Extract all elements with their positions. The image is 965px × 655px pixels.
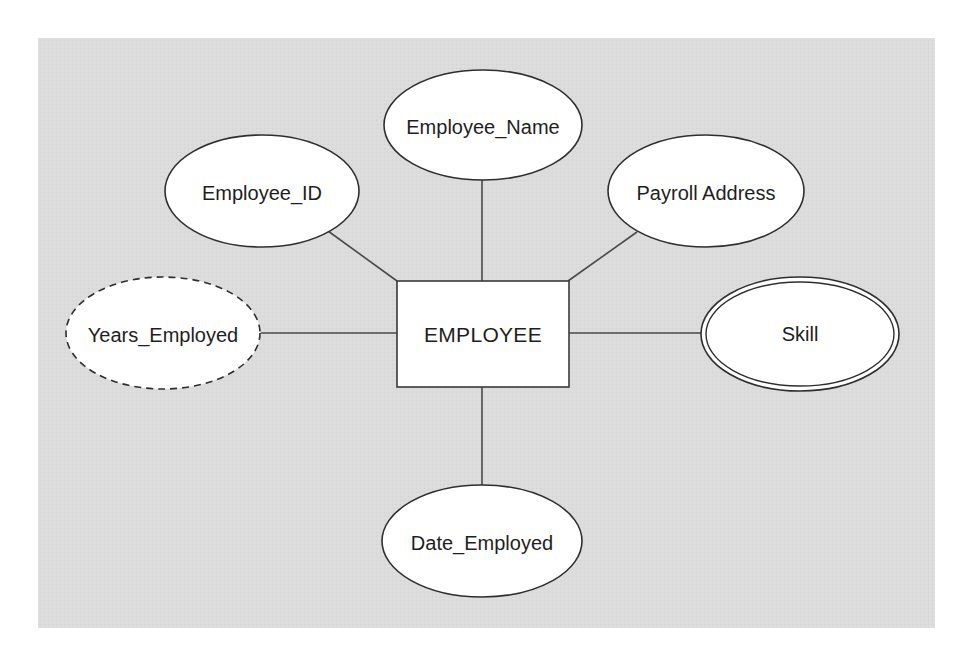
attribute-label: Employee_ID [202,182,322,205]
attribute-years-employed[interactable]: Years_Employed [66,277,260,389]
attribute-label: Employee_Name [406,116,559,139]
attribute-label: Years_Employed [88,324,238,347]
entity-employee[interactable]: EMPLOYEE [397,281,569,387]
attribute-label: Payroll Address [637,182,776,204]
attribute-label: Date_Employed [411,532,553,555]
attribute-employee-name[interactable]: Employee_Name [384,70,582,180]
attribute-payroll-address[interactable]: Payroll Address [608,135,804,247]
entity-label: EMPLOYEE [424,323,542,346]
attribute-skill[interactable]: Skill [701,277,899,391]
attribute-date-employed[interactable]: Date_Employed [382,485,582,597]
er-diagram: EMPLOYEE Employee_Name Employee_ID Payro… [0,0,965,655]
attribute-employee-id[interactable]: Employee_ID [165,135,359,247]
attribute-label: Skill [782,323,819,345]
